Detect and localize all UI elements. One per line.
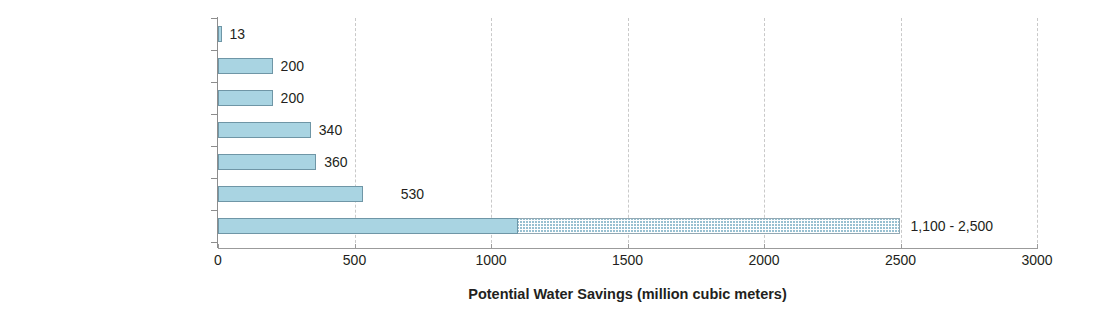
y-tick-mark [211, 114, 218, 115]
bar[interactable] [218, 58, 273, 74]
x-tick-mark-3000 [1037, 244, 1038, 249]
bar-segment-solid [218, 218, 518, 234]
x-tick-mark-1500 [628, 244, 629, 249]
y-tick-mark [211, 178, 218, 179]
bar-row: Landscapes1,100 - 2,500 [218, 210, 1037, 242]
x-tick-mark-500 [355, 244, 356, 249]
bar-value-label: 200 [281, 82, 304, 114]
bar-row: Dishwashers13 [218, 18, 1037, 50]
x-tick-mark-0 [218, 244, 219, 249]
water-savings-bar-chart: Dishwashers13Faucets200Showers200Clothes… [0, 0, 1105, 319]
bar-segment-solid [218, 90, 273, 106]
bar-row: Toilets360 [218, 146, 1037, 178]
x-axis-title: Potential Water Savings (million cubic m… [218, 286, 1037, 302]
x-tick-label-2000: 2000 [724, 252, 804, 268]
x-tick-label-1000: 1000 [451, 252, 531, 268]
bar-row: Household leak repair530 [218, 178, 1037, 210]
bar[interactable] [218, 90, 273, 106]
x-tick-mark-1000 [491, 244, 492, 249]
y-tick-mark [211, 242, 218, 243]
bar-segment-solid [218, 154, 316, 170]
x-tick-label-3000: 3000 [997, 252, 1077, 268]
bar-segment-solid [218, 122, 311, 138]
y-tick-mark [211, 146, 218, 147]
x-tick-label-1500: 1500 [588, 252, 668, 268]
bar-segment-solid [218, 186, 363, 202]
y-tick-mark [211, 210, 218, 211]
x-tick-mark-2500 [901, 244, 902, 249]
bar-value-label: 1,100 - 2,500 [911, 210, 994, 242]
gridline-3000 [1037, 18, 1038, 248]
bar-value-label: 360 [324, 146, 347, 178]
bar-row: Faucets200 [218, 50, 1037, 82]
bar[interactable] [218, 122, 311, 138]
x-tick-label-500: 500 [315, 252, 395, 268]
bar-segment-solid [218, 26, 222, 42]
bar[interactable] [218, 218, 900, 234]
bar-row: Clothes washers340 [218, 114, 1037, 146]
bar[interactable] [218, 26, 222, 42]
y-tick-mark [211, 50, 218, 51]
bar-value-label: 200 [281, 50, 304, 82]
x-tick-label-0: 0 [178, 252, 258, 268]
bar-segment-range-hatched [518, 218, 900, 234]
plot-area: Dishwashers13Faucets200Showers200Clothes… [218, 18, 1037, 248]
bar-value-label: 340 [319, 114, 342, 146]
x-tick-mark-2000 [764, 244, 765, 249]
bar-row: Showers200 [218, 82, 1037, 114]
bar-segment-solid [218, 58, 273, 74]
bar-value-label: 530 [401, 178, 424, 210]
bar[interactable] [218, 186, 363, 202]
y-tick-mark [211, 18, 218, 19]
y-tick-mark [211, 82, 218, 83]
bar[interactable] [218, 154, 316, 170]
x-tick-label-2500: 2500 [861, 252, 941, 268]
bar-value-label: 13 [230, 18, 246, 50]
